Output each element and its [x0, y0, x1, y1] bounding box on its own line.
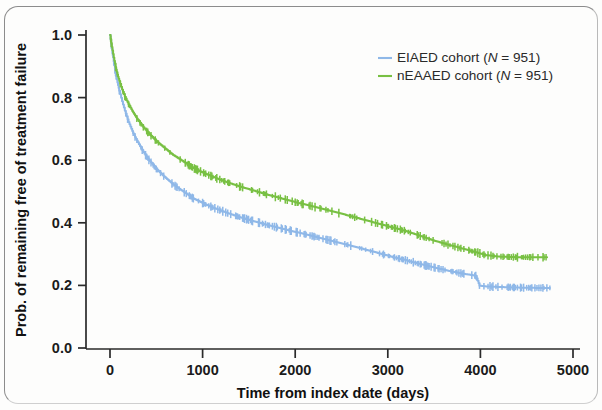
x-tick-label: 0: [106, 362, 114, 378]
y-tick-label: 0.8: [52, 90, 72, 106]
legend-label-2: nEAAED cohort (N = 951): [397, 68, 553, 83]
figure-root: 0.00.20.40.60.81.0 010002000300040005000…: [0, 0, 602, 410]
legend-label-1: EIAED cohort (N = 951): [397, 50, 540, 65]
y-tick-label: 0.4: [52, 215, 72, 231]
x-tick-label: 1000: [186, 362, 218, 378]
y-tick-label: 0.6: [52, 152, 72, 168]
x-axis-ticks: 010002000300040005000: [106, 349, 589, 378]
y-axis-title: Prob. of remaining free of treatment fai…: [13, 43, 29, 337]
x-tick-label: 4000: [464, 362, 496, 378]
y-tick-label: 0.0: [52, 340, 72, 356]
x-tick-label: 5000: [557, 362, 589, 378]
y-tick-label: 0.2: [52, 277, 72, 293]
legend: EIAED cohort (N = 951)nEAAED cohort (N =…: [378, 50, 553, 83]
x-tick-label: 2000: [279, 362, 311, 378]
y-axis-ticks: 0.00.20.40.60.81.0: [52, 27, 86, 356]
x-tick-label: 3000: [372, 362, 404, 378]
y-tick-label: 1.0: [52, 27, 72, 43]
x-axis-title: Time from index date (days): [237, 385, 429, 401]
kaplan-meier-chart: 0.00.20.40.60.81.0 010002000300040005000…: [0, 0, 602, 410]
